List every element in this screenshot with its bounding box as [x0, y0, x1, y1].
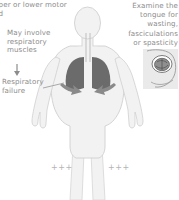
anatomical-figure: pper or lower motor ed May involve respi…	[0, 0, 179, 200]
annotation-respiratory-failure: Respiratory failure	[2, 78, 64, 95]
annotation-respiratory-muscles: May involve respiratory muscles	[7, 29, 77, 55]
tongue-inset	[143, 49, 178, 89]
reflex-marker-left: +++	[51, 163, 73, 172]
annotation-upper-lower-motor: pper or lower motor ed	[0, 1, 90, 18]
down-arrow-icon	[14, 64, 20, 76]
tongue-illustration	[143, 49, 178, 89]
torso-shape	[51, 46, 124, 158]
annotation-tongue-examination: Examine the tongue for wasting, fascicul…	[108, 1, 178, 47]
reflex-marker-right: +++	[108, 163, 130, 172]
